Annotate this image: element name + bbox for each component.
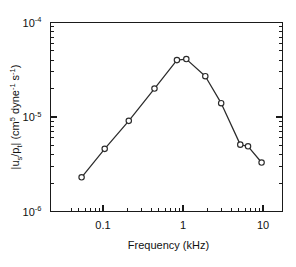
log-log-line-chart: 0.111010-610-510-4Frequency (kHz)|us/pt|… (0, 0, 296, 267)
x-axis-title: Frequency (kHz) (128, 239, 209, 251)
data-point-marker (102, 146, 107, 151)
y-tick-label: 10-5 (23, 110, 42, 124)
y-tick-label: 10-4 (23, 15, 42, 29)
ylabel-sup-m1a: -1 (8, 83, 17, 90)
data-point-marker (203, 74, 208, 79)
data-point-marker (245, 144, 250, 149)
ylabel-slash: /p (9, 148, 21, 157)
y-axis-ticks: 10-610-510-4 (23, 15, 283, 218)
x-tick-label: 1 (180, 219, 186, 231)
figure-container: 0.111010-610-510-4Frequency (kHz)|us/pt|… (0, 0, 296, 267)
y-tick-exponent: -5 (35, 110, 42, 119)
ylabel-abs-open: |u (9, 160, 21, 169)
data-point-marker (174, 57, 179, 62)
data-point-marker (218, 100, 223, 105)
x-tick-label: 0.1 (95, 219, 110, 231)
data-markers (79, 56, 264, 180)
ylabel-dyne: dyne (9, 90, 21, 117)
y-axis-title: |us/pt| (cm5 dyne-1 s-1) (8, 65, 24, 170)
data-point-marker (238, 142, 243, 147)
data-point-marker (184, 56, 189, 61)
ylabel-sup-m1b: -1 (8, 68, 17, 75)
y-tick-label: 10-6 (23, 204, 42, 218)
ylabel-paren-close: ) (9, 65, 21, 69)
data-point-marker (126, 118, 131, 123)
y-tick-exponent: -6 (35, 204, 42, 213)
plot-frame (51, 23, 283, 212)
data-point-marker (79, 175, 84, 180)
data-point-marker (259, 160, 264, 165)
data-series-line (82, 59, 262, 177)
y-tick-exponent: -4 (35, 15, 42, 24)
ylabel-abs-close: | (cm (9, 121, 21, 145)
x-axis-ticks: 0.1110 (71, 205, 269, 231)
data-point-marker (152, 86, 157, 91)
x-tick-label: 10 (257, 219, 269, 231)
